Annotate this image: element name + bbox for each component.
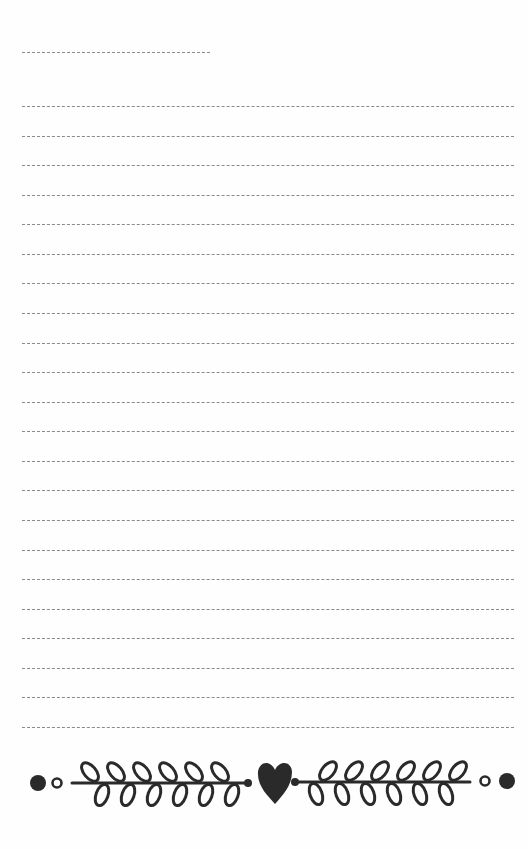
ruled-line bbox=[22, 106, 514, 107]
leaf-icon bbox=[333, 782, 352, 807]
leaf-icon bbox=[197, 783, 216, 808]
leaf-icon bbox=[182, 760, 205, 785]
leaf-icon bbox=[208, 760, 231, 785]
leaf-icon bbox=[385, 782, 404, 807]
ruled-line bbox=[22, 402, 514, 403]
ruled-line bbox=[22, 224, 514, 225]
leaf-icon bbox=[307, 782, 326, 807]
ruled-line bbox=[22, 579, 514, 580]
ruled-line bbox=[22, 697, 514, 698]
ruled-line bbox=[22, 490, 514, 491]
ruled-line bbox=[22, 550, 514, 551]
hollow-dot-icon bbox=[481, 777, 490, 786]
ruled-line bbox=[22, 165, 514, 166]
leaf-icon bbox=[119, 783, 138, 808]
leaf-icon bbox=[156, 760, 179, 785]
heart-icon bbox=[258, 763, 292, 804]
ruled-line bbox=[22, 313, 514, 314]
leaf-icon bbox=[411, 782, 430, 807]
filled-dot-icon bbox=[499, 773, 515, 789]
ruled-line bbox=[22, 520, 514, 521]
leaf-icon bbox=[420, 759, 443, 784]
ruled-line bbox=[22, 254, 514, 255]
stem-end-dot-icon bbox=[244, 779, 252, 787]
ruled-line bbox=[22, 195, 514, 196]
ruled-line bbox=[22, 372, 514, 373]
ruled-line bbox=[22, 609, 514, 610]
leaf-icon bbox=[171, 783, 190, 808]
header-dashed-line bbox=[22, 52, 210, 53]
leaf-icon bbox=[446, 759, 469, 784]
laurel-heart-ornament bbox=[0, 750, 528, 820]
hollow-dot-icon bbox=[53, 779, 62, 788]
ruled-line bbox=[22, 668, 514, 669]
ruled-line bbox=[22, 283, 514, 284]
ruled-line bbox=[22, 431, 514, 432]
ruled-line bbox=[22, 343, 514, 344]
leaf-icon bbox=[78, 760, 101, 785]
ruled-line bbox=[22, 136, 514, 137]
leaf-icon bbox=[223, 783, 242, 808]
ruled-line bbox=[22, 727, 514, 728]
leaf-icon bbox=[342, 759, 365, 784]
leaf-icon bbox=[93, 783, 112, 808]
leaf-icon bbox=[130, 760, 153, 785]
leaf-icon bbox=[104, 760, 127, 785]
leaf-icon bbox=[145, 783, 164, 808]
leaf-icon bbox=[316, 759, 339, 784]
ruled-line bbox=[22, 461, 514, 462]
notepad-page bbox=[0, 0, 528, 849]
leaf-icon bbox=[359, 782, 378, 807]
leaf-icon bbox=[394, 759, 417, 784]
ruled-line bbox=[22, 638, 514, 639]
filled-dot-icon bbox=[30, 775, 46, 791]
leaf-icon bbox=[368, 759, 391, 784]
leaf-icon bbox=[437, 782, 456, 807]
